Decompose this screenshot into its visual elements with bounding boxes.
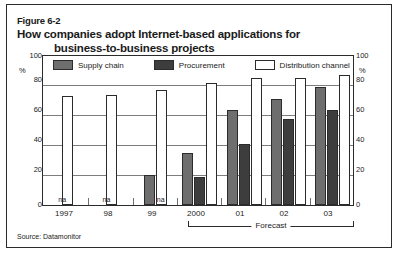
x-tick-02 (265, 198, 266, 205)
bar-procurement-03 (327, 110, 338, 205)
bar-procurement-02 (283, 119, 294, 205)
forecast-bracket-left-tick (188, 221, 189, 227)
y-tick-left-20: 20 (16, 166, 42, 174)
forecast-label: Forecast (251, 221, 290, 230)
bar-supply-chain-2000 (182, 153, 193, 205)
x-label-03: 03 (306, 209, 350, 218)
na-label-98: na (87, 196, 125, 203)
page-title: How companies adopt Internet-based appli… (17, 28, 381, 55)
x-label-02: 02 (262, 209, 306, 218)
figure-title-line1: How companies adopt Internet-based appli… (17, 28, 381, 42)
x-tick-99 (133, 198, 134, 205)
y-tick-right-20: 20 (356, 166, 382, 174)
x-tick-01 (221, 198, 222, 205)
bar-supply-chain-02 (271, 99, 282, 205)
y-tick-right-100: 100 (356, 52, 382, 60)
forecast-bracket-right-tick (353, 221, 354, 227)
bar-group-98: na (87, 56, 131, 205)
forecast-bracket: Forecast (188, 221, 354, 235)
x-tick-03 (310, 198, 311, 205)
x-label-99: 99 (130, 209, 174, 218)
bar-distribution-channel-01 (251, 78, 262, 205)
bar-procurement-01 (239, 144, 250, 205)
y-tick-left-40: 40 (16, 136, 42, 144)
bar-distribution-channel-1997 (62, 96, 73, 205)
bar-supply-chain-03 (315, 87, 326, 205)
bar-distribution-channel-2000 (206, 83, 217, 205)
bar-procurement-2000 (194, 177, 205, 205)
bar-distribution-channel-02 (295, 78, 306, 205)
bar-group-03 (309, 56, 353, 205)
y-tick-left-100: 100 (16, 52, 42, 60)
bar-group-01 (220, 56, 264, 205)
y-tick-right-80: 80 (356, 76, 382, 84)
y-tick-right-0: 0 (356, 201, 382, 209)
figure-title-block: Figure 6-2 How companies adopt Internet-… (17, 10, 381, 55)
bar-group-99: na (132, 56, 176, 205)
na-label-1997: na (43, 196, 81, 203)
x-label-98: 98 (86, 209, 130, 218)
source-note: Source: Datamonitor (17, 233, 81, 240)
y-tick-right-40: 40 (356, 136, 382, 144)
na-label-99: na (146, 196, 176, 203)
bar-group-02 (264, 56, 308, 205)
y-tick-right-60: 60 (356, 106, 382, 114)
figure-frame: Figure 6-2 How companies adopt Internet-… (6, 4, 392, 248)
x-label-1997: 1997 (42, 209, 86, 218)
x-label-01: 01 (218, 209, 262, 218)
bars-layer: nanana (43, 56, 353, 205)
bar-distribution-channel-03 (339, 75, 350, 205)
bar-distribution-channel-98 (106, 95, 117, 205)
bar-group-2000 (176, 56, 220, 205)
bar-supply-chain-01 (227, 110, 238, 205)
y-axis-left-unit: % (19, 66, 26, 75)
y-tick-left-0: 0 (16, 201, 42, 209)
y-tick-left-60: 60 (16, 106, 42, 114)
y-tick-left-80: 80 (16, 76, 42, 84)
figure-number: Figure 6-2 (17, 15, 60, 26)
x-tick-2000 (177, 198, 178, 205)
figure-title-line2: business-to-business projects (54, 42, 381, 56)
bar-group-1997: na (43, 56, 87, 205)
bar-distribution-channel-99 (156, 90, 167, 205)
x-label-2000: 2000 (174, 209, 218, 218)
